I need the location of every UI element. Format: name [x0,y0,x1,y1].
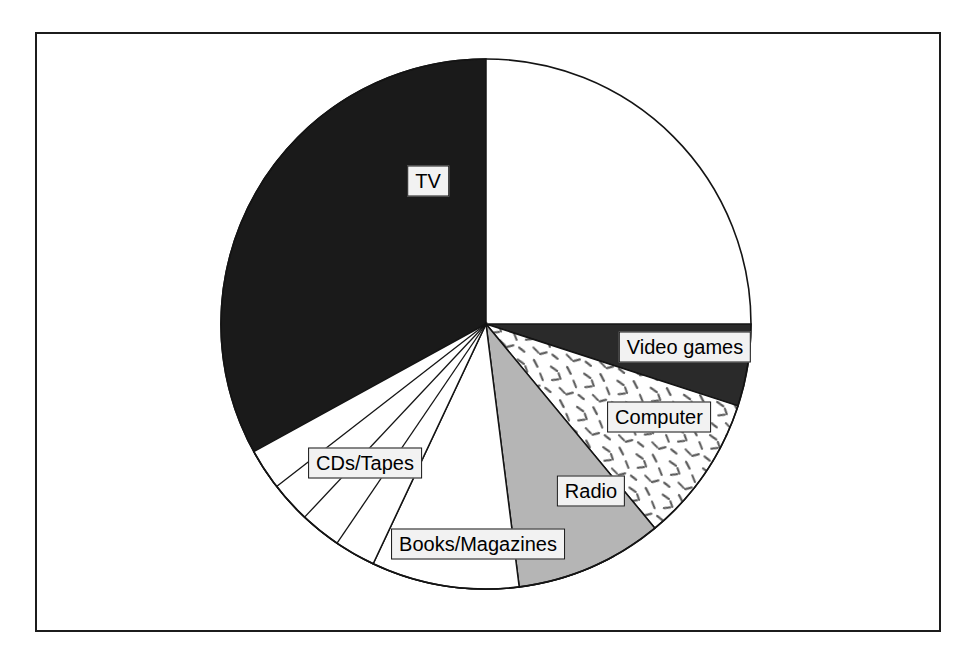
chart-page: TV Video games Computer Radio Books/Maga… [0,0,968,655]
pie-chart-area: TV Video games Computer Radio Books/Maga… [0,0,968,655]
slice-label-video-games: Video games [619,332,751,363]
slice-label-books-magazines: Books/Magazines [391,529,565,560]
slice-label-cds-tapes: CDs/Tapes [308,448,422,479]
slice-label-tv: TV [407,166,449,197]
slice-label-computer: Computer [607,402,711,433]
slice-label-radio: Radio [557,476,625,507]
